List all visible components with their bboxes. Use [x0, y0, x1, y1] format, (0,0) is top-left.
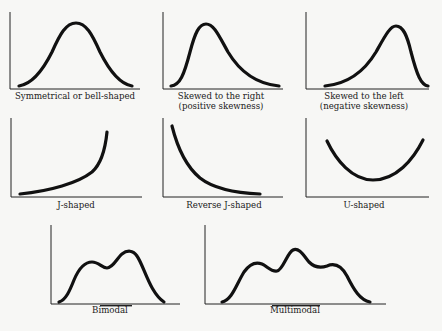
bell-curve	[19, 23, 132, 86]
panel-label-line-1: Skewed to the right	[178, 91, 265, 101]
panel-label-line-1: Skewed to the left	[324, 91, 404, 101]
panel-label: Reverse J-shaped	[186, 200, 262, 210]
panel-label: Bimodal	[92, 305, 128, 315]
panel-u-shaped: U-shaped	[306, 118, 429, 210]
panel-skewed-left: Skewed to the left (negative skewness)	[306, 12, 429, 111]
panel-skewed-right: Skewed to the right (positive skewness)	[163, 12, 283, 111]
panel-bimodal: Bimodal	[51, 225, 180, 315]
panel-symmetrical: Symmetrical or bell-shaped	[10, 12, 140, 101]
multimodal-curve	[222, 249, 370, 302]
u-curve	[327, 140, 423, 180]
panel-label: Multimodal	[270, 305, 320, 315]
reverse-j-curve	[172, 126, 260, 194]
panel-j-shaped: J-shaped	[11, 118, 142, 210]
panel-reverse-j-shaped: Reverse J-shaped	[163, 118, 283, 210]
panel-multimodal: Multimodal	[205, 225, 386, 315]
panel-label-line-2: (positive skewness)	[179, 101, 264, 111]
panel-label: Symmetrical or bell-shaped	[15, 91, 136, 101]
j-curve	[20, 132, 107, 194]
distribution-shapes-diagram: Symmetrical or bell-shaped Skewed to the…	[0, 0, 442, 331]
right-skewed-curve	[171, 24, 279, 86]
panel-label: J-shaped	[56, 200, 95, 210]
panel-label: U-shaped	[343, 200, 385, 210]
left-skewed-curve	[325, 26, 428, 86]
bimodal-curve	[59, 251, 164, 302]
panel-label-line-2: (negative skewness)	[320, 101, 408, 111]
